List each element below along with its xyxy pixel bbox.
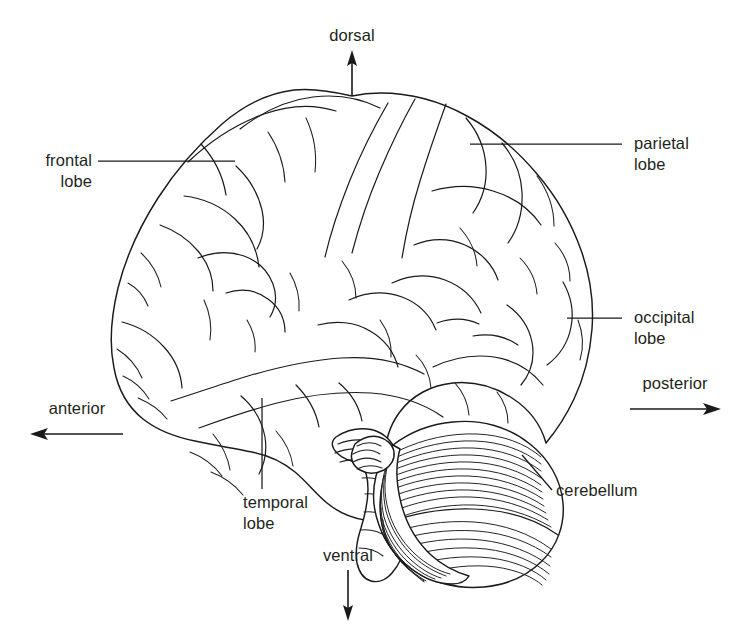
brain-illustration bbox=[0, 0, 733, 638]
mid-lateral-gyrus-6 bbox=[455, 383, 469, 415]
brain-diagram-figure: frontal lobe parietal lobe occipital lob… bbox=[0, 0, 733, 638]
flocculus-outline bbox=[351, 436, 394, 473]
label-anterior: anterior bbox=[26, 398, 128, 419]
label-dorsal: dorsal bbox=[302, 25, 402, 46]
label-temporal-lobe: temporal lobe bbox=[243, 492, 353, 534]
label-occipital-lobe: occipital lobe bbox=[634, 307, 733, 349]
mid-lateral-gyrus-7 bbox=[497, 392, 508, 423]
label-ventral: ventral bbox=[298, 545, 398, 566]
label-cerebellum: cerebellum bbox=[556, 480, 686, 501]
temporal-tip-sulcus bbox=[190, 452, 222, 476]
label-parietal-lobe: parietal lobe bbox=[634, 133, 733, 175]
temporal-tip-sulcus-2 bbox=[211, 472, 243, 495]
label-posterior: posterior bbox=[623, 373, 727, 394]
label-frontal-lobe: frontal lobe bbox=[0, 150, 92, 192]
